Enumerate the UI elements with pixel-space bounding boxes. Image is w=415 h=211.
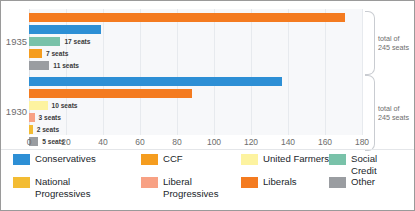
bar-ccf[interactable] [29,49,42,58]
bar-conservatives[interactable] [29,25,101,34]
x-tick-label: 60 [135,137,144,147]
total-seats-note: total of 245 seats [378,34,409,52]
legend-swatch [141,154,158,165]
bar-value-label: 3 seats [39,113,61,122]
legend-swatch [241,154,258,165]
bar-liberals[interactable] [29,89,192,98]
total-brace [365,11,375,75]
bar-value-label: 7 seats [46,49,68,58]
bar-value-label: 17 seats [64,37,90,46]
legend-label: Social Credit [351,153,405,176]
bar-social-credit[interactable] [29,37,60,46]
legend-swatch [141,177,158,188]
legend-swatch [329,177,346,188]
plot-area: (King) 171 seats39 seats17 seats7 seats1… [29,9,362,135]
bar-value-label: (King) 171 seats [0,13,9,22]
bar-other[interactable] [29,61,49,70]
legend-item[interactable]: United Farmers [241,153,329,165]
x-tick-label: 160 [318,137,332,147]
legend-item[interactable]: Liberal Progressives [141,176,218,199]
bar-value-label: 11 seats [53,61,79,70]
bar-groups: (King) 171 seats39 seats17 seats7 seats1… [29,9,362,135]
legend-item[interactable]: National Progressives [13,176,90,199]
legend-item[interactable]: Conservatives [13,153,96,165]
legend-swatch [241,177,258,188]
x-tick-label: 80 [172,137,181,147]
total-seats-note: total of 245 seats [378,104,409,122]
bar-liberals[interactable] [29,13,345,22]
x-tick-label: 100 [207,137,221,147]
legend-item[interactable]: CCF [141,153,183,165]
legend-item[interactable]: Other [329,176,375,188]
x-tick-label: 20 [61,137,70,147]
year-label-1935: 1935 [3,36,27,47]
bar-united-farmers[interactable] [29,101,48,110]
chart-legend: ConservativesCCFUnited FarmersSocial Cre… [13,153,405,205]
legend-label: CCF [163,153,183,165]
chart-figure: (King) 171 seats39 seats17 seats7 seats1… [0,0,415,211]
x-tick-label: 120 [244,137,258,147]
legend-label: National Progressives [35,176,90,199]
bar-value-label: 2 seats [37,125,59,134]
legend-item[interactable]: Social Credit [329,153,405,176]
legend-swatch [329,154,346,165]
x-tick-label: 40 [98,137,107,147]
bar-conservatives[interactable] [29,77,282,86]
year-label-1930: 1930 [3,106,27,117]
bar-liberal-progressives[interactable] [29,113,35,122]
legend-swatch [13,177,30,188]
x-tick-label: 140 [281,137,295,147]
x-tick-label: 0 [27,137,32,147]
legend-item[interactable]: Liberals [241,176,297,188]
legend-label: Liberals [263,176,297,188]
total-brace [365,75,375,151]
legend-label: Other [351,176,375,188]
legend-label: United Farmers [263,153,329,165]
legend-swatch [13,154,30,165]
legend-divider [1,149,414,150]
bar-national-progressives[interactable] [29,125,33,134]
bar-value-label: 10 seats [52,101,78,110]
gridline [362,9,363,135]
legend-label: Liberal Progressives [163,176,218,199]
legend-label: Conservatives [35,153,96,165]
